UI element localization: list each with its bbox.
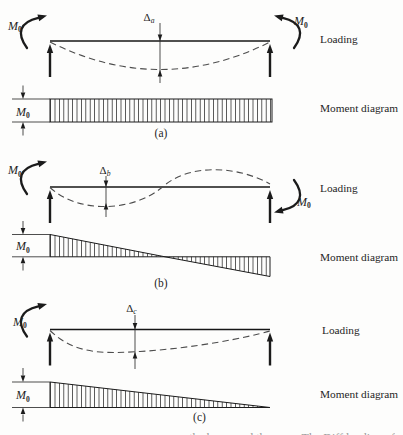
deflection-label: Δc (126, 302, 137, 316)
moment-dim-arrow-top (21, 221, 26, 235)
right-reaction-arrow (267, 44, 273, 77)
arrowhead (37, 14, 47, 21)
arrowhead-up (267, 44, 273, 53)
panel-c: M0 Δc Loading M0 Moment diagram (c) (12, 302, 398, 424)
moment-diagram-label: Moment diagram (320, 102, 398, 114)
arrowhead-up (158, 70, 163, 77)
arrowhead-down (133, 323, 138, 330)
beam-figure: M0 M0 Δa Loading M0 Moment diagram (a) (0, 0, 403, 435)
arrowhead-up (267, 333, 273, 342)
arrowhead-down (21, 376, 26, 383)
arrowhead-up (267, 190, 273, 199)
arrowhead-up (133, 352, 138, 359)
left-reaction-arrow (47, 44, 53, 77)
moment-dim-label: M0 (15, 388, 30, 404)
moment-dim-arrow-top (21, 86, 26, 100)
deflection-dimension (158, 23, 163, 83)
arrowhead (274, 14, 284, 21)
moment-dim-label: M0 (15, 239, 30, 255)
left-moment-label: M0 (7, 163, 22, 179)
arrowhead-up (21, 257, 26, 264)
cropped-bottom-text: the beam and the span. The Diff loading … (98, 427, 395, 435)
left-moment-arrow (21, 303, 47, 337)
right-moment-label: M0 (293, 14, 308, 30)
arrowhead-up (21, 122, 26, 129)
left-reaction-arrow (47, 190, 53, 223)
moment-dim-label: M0 (15, 105, 30, 121)
panel-a: M0 M0 Δa Loading M0 Moment diagram (a) (7, 11, 398, 141)
left-moment-arrow (21, 14, 47, 48)
arrowhead-up (47, 333, 53, 342)
moment-diagram-region-negative (165, 257, 270, 277)
deflection-dimension (104, 176, 109, 217)
moment-dim-arrow-bottom (21, 257, 26, 271)
loading-label: Loading (322, 324, 360, 336)
moment-dim-arrow-bottom (21, 408, 26, 422)
arrowhead-up (47, 44, 53, 53)
arrowhead-down (104, 181, 109, 188)
left-moment-label: M0 (7, 19, 22, 35)
deflection-label: Δb (100, 164, 111, 178)
panel-caption: (a) (155, 127, 168, 140)
moment-diagram-region-positive (50, 235, 165, 257)
deflection-curve (50, 170, 270, 207)
deflection-dimension (133, 315, 138, 369)
moment-diagram-label: Moment diagram (320, 388, 398, 400)
arrowhead-down (21, 228, 26, 235)
arrowhead-down (21, 93, 26, 100)
right-reaction-arrow (267, 333, 273, 366)
arrowhead-up (21, 408, 26, 415)
deflection-curve (50, 331, 270, 353)
loading-label: Loading (320, 33, 358, 45)
moment-dim-arrow-top (21, 368, 26, 382)
arrowhead-up (47, 190, 53, 199)
moment-diagram-region (50, 382, 270, 408)
right-moment-label: M0 (296, 195, 311, 211)
arrowhead (37, 160, 47, 167)
panel-caption: (c) (193, 411, 206, 424)
arrowhead-down (158, 35, 163, 42)
right-reaction-arrow (267, 190, 273, 223)
left-reaction-arrow (47, 333, 53, 366)
loading-label: Loading (320, 182, 358, 194)
panel-caption: (b) (154, 277, 168, 290)
moment-diagram-label: Moment diagram (320, 251, 398, 263)
left-moment-label: M0 (12, 315, 27, 331)
figure-page: M0 M0 Δa Loading M0 Moment diagram (a) (0, 0, 403, 435)
moment-diagram-region (50, 99, 272, 122)
deflection-label: Δa (144, 11, 155, 25)
left-moment-arrow (21, 160, 47, 194)
arrowhead (37, 303, 47, 310)
panel-b: M0 M0 Δb Loading M0 Moment diagram (b) (7, 160, 398, 290)
arrowhead (274, 207, 284, 214)
moment-dim-arrow-bottom (21, 122, 26, 136)
